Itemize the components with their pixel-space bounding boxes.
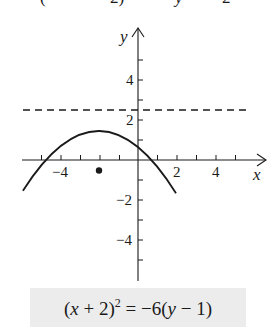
x-axis: −4 2 4 x [22,154,266,184]
x-tick-label-4: 4 [212,164,220,180]
focus-point [96,167,102,173]
eq-rhs-rest: − 1) [176,298,212,319]
y-axis-label: y [118,27,128,46]
x-tick-label-neg4: −4 [52,164,68,180]
x-axis-label: x [252,165,261,184]
eq-lhs-rest: + 2) [79,298,115,319]
y-tick-label-2: 2 [126,112,134,128]
parabola-graph: −4 2 4 x 4 2 −2 −4 y [0,0,276,329]
parabola-curve [23,131,176,193]
x-tick-label-2: 2 [173,164,181,180]
eq-rhs: = −6( [121,298,168,319]
y-tick-label-neg4: −4 [116,232,132,248]
equation-box: (x + 2)2 = −6(y − 1) [30,288,246,327]
y-tick-label-neg2: −2 [116,192,132,208]
equation-text: (x + 2)2 = −6(y − 1) [30,296,246,320]
eq-y-var: y [168,298,176,319]
y-tick-label-4: 4 [126,72,134,88]
eq-x-var: x [70,298,78,319]
y-axis: 4 2 −2 −4 y [116,27,144,281]
